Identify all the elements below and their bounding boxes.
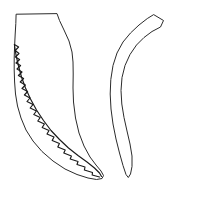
figure-canvas: [0, 0, 197, 198]
specimen-line-drawing: [0, 0, 197, 198]
